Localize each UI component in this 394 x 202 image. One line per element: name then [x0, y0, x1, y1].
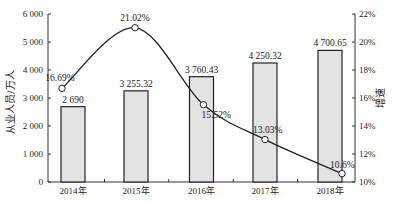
line-marker: [132, 25, 138, 31]
right-tick-label: 10%: [359, 177, 376, 187]
growth-value-label: 13.03%: [253, 125, 282, 135]
growth-value-label: 16.69%: [45, 73, 74, 83]
left-tick-label: 1 000: [23, 149, 44, 159]
bar: [61, 107, 85, 182]
left-tick-label: 6 000: [23, 9, 44, 19]
left-tick-label: 5 000: [23, 37, 44, 47]
bar: [124, 91, 148, 182]
x-tick-label: 2015年: [123, 185, 150, 196]
line-marker: [262, 136, 268, 142]
x-tick-label: 2018年: [317, 185, 344, 196]
right-tick-label: 18%: [359, 65, 376, 75]
right-y-axis: 10%12%14%16%18%20%22%: [352, 9, 376, 187]
growth-value-label: 15.52%: [202, 110, 231, 120]
left-tick-label: 3 000: [23, 93, 44, 103]
bar-value-label: 4 250.32: [248, 51, 282, 61]
right-tick-label: 20%: [359, 37, 376, 47]
left-tick-label: 4 000: [23, 65, 44, 75]
combo-chart: 01 0002 0003 0004 0005 0006 000 10%12%14…: [0, 0, 394, 202]
left-tick-label: 0: [39, 177, 44, 187]
growth-value-label: 21.02%: [120, 13, 149, 23]
line-marker: [59, 85, 65, 91]
growth-value-label: 10.6%: [330, 160, 355, 170]
bar-value-label: 3 255.32: [119, 79, 153, 89]
line-marker: [339, 170, 345, 176]
right-tick-label: 16%: [359, 93, 376, 103]
right-tick-label: 22%: [359, 9, 376, 19]
bar: [253, 63, 277, 182]
bar-value-label: 3 760.43: [185, 65, 219, 75]
x-tick-label: 2017年: [252, 185, 279, 196]
right-tick-label: 14%: [359, 121, 376, 131]
left-y-axis: 01 0002 0003 0004 0005 0006 000: [23, 9, 51, 187]
x-tick-label: 2016年: [188, 185, 215, 196]
left-axis-title: 从业人员/万人: [5, 70, 16, 133]
right-tick-label: 12%: [359, 149, 376, 159]
right-axis-title: 增速: [374, 88, 386, 108]
bar-value-label: 2 690: [62, 95, 84, 105]
left-tick-label: 2 000: [23, 121, 44, 131]
bar-value-label: 4 700.65: [313, 38, 347, 48]
x-tick-label: 2014年: [60, 185, 87, 196]
line-marker: [200, 102, 206, 108]
